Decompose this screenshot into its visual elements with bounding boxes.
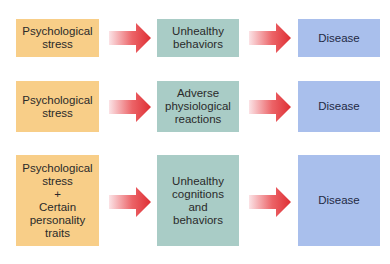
cause-box-row-2: Psychological stress [16,81,99,132]
mechanism-box-row-1: Unhealthy behaviors [157,19,239,57]
arrow-right-icon [249,23,291,53]
mechanism-box-row-3: Unhealthy cognitions and behaviors [157,155,239,246]
outcome-label: Disease [318,32,360,45]
cause-label: Psychological stress [22,94,92,120]
cause-label: Psychological stress [22,25,92,51]
cause-box-row-3: Psychological stress + Certain personali… [16,155,99,246]
outcome-label: Disease [318,194,360,207]
arrow-right-icon [109,92,151,122]
outcome-box-row-3: Disease [298,155,380,246]
arrow-right-icon [109,23,151,53]
arrow-right-icon [249,187,291,217]
cause-box-row-1: Psychological stress [16,19,99,57]
cause-label: Psychological stress + Certain personali… [22,162,92,240]
arrow-right-icon [109,187,151,217]
mechanism-label: Unhealthy cognitions and behaviors [172,175,224,227]
outcome-box-row-2: Disease [298,81,380,132]
outcome-label: Disease [318,100,360,113]
mechanism-box-row-2: Adverse physiological reactions [157,81,239,132]
arrow-right-icon [249,92,291,122]
mechanism-label: Adverse physiological reactions [165,87,231,126]
outcome-box-row-1: Disease [298,19,380,57]
mechanism-label: Unhealthy behaviors [172,25,224,51]
